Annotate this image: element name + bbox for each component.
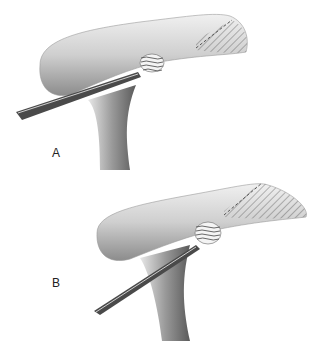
bone-illustration-b xyxy=(0,173,323,346)
panel-label-a: A xyxy=(52,146,60,160)
bone-stem xyxy=(88,85,136,170)
panel-label-b: B xyxy=(52,276,60,290)
panel-a: A xyxy=(0,0,323,173)
graft-ellipse xyxy=(195,222,221,244)
bone-head xyxy=(40,14,248,95)
bone-illustration-a xyxy=(0,0,323,173)
panel-b: B xyxy=(0,173,323,346)
